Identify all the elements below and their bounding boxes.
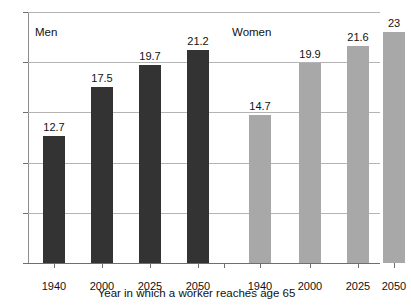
bar-value-label: 17.5 [91,72,112,84]
y-tick-mark [23,213,28,214]
y-tick-mark [23,163,28,164]
y-tick-mark [23,263,28,264]
bar: 14.7 [249,115,271,263]
bar: 21.2 [187,50,209,263]
x-tick-mark [198,263,199,268]
bar: 17.5 [91,87,113,263]
bar: 23 [383,32,405,263]
bar: 21.6 [347,46,369,263]
y-tick-mark [23,112,28,113]
bar-value-label: 21.6 [347,31,368,43]
bar-value-label: 21.2 [187,35,208,47]
bar: 19.9 [299,63,321,263]
y-tick-mark [23,12,28,13]
bar: 19.7 [139,65,161,263]
x-tick-mark [310,263,311,268]
gridline [28,12,380,13]
bar-value-label: 23 [388,17,400,29]
plot-area: 12.717.519.721.214.719.921.623 194020002… [28,12,380,263]
x-axis-title: Year in which a worker reaches age 65 [0,287,393,300]
y-tick-mark [23,62,28,63]
bar-value-label: 19.7 [139,50,160,62]
x-tick-mark [224,263,225,268]
bar-value-label: 12.7 [43,121,64,133]
x-tick-mark [358,263,359,268]
bar-value-label: 19.9 [299,48,320,60]
x-tick-mark [102,263,103,268]
x-tick-mark [54,263,55,268]
x-tick-mark [260,263,261,268]
gridline [28,263,380,264]
group-label-men: Men [35,26,57,39]
x-tick-mark [394,263,395,268]
group-label-women: Women [232,26,271,39]
bar: 12.7 [43,136,65,264]
x-tick-mark [150,263,151,268]
bar-value-label: 14.7 [249,100,270,112]
